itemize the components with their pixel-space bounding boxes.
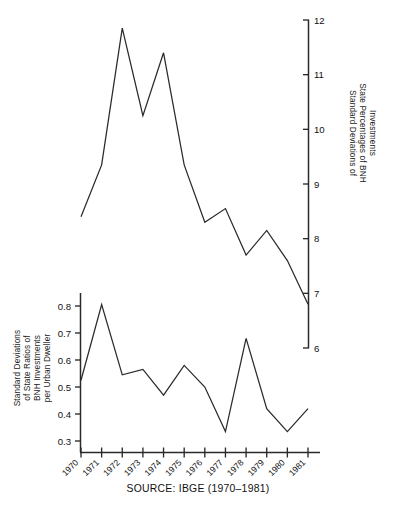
lower-ytick-label-0.7: 0.7 [58, 328, 71, 339]
figure-canvas: 1211109876 Standard Deviations ofState P… [0, 0, 397, 506]
lower-xtick-label-1977: 1977 [204, 457, 225, 478]
upper-series-line [81, 28, 308, 304]
upper-tick-label-11: 11 [314, 69, 324, 80]
lower-axis-title-line-3: per Urban Dweller [42, 334, 52, 403]
upper-axis-title-line-2: Investments [368, 110, 378, 156]
upper-tick-label-6: 6 [314, 343, 319, 354]
source-note: SOURCE: IBGE (1970–1981) [127, 483, 270, 494]
lower-xtick-label-1979: 1979 [246, 457, 267, 478]
upper-tick-label-9: 9 [314, 179, 319, 190]
upper-tick-label-group: 1211109876 [314, 15, 325, 354]
lower-xtick-label-1975: 1975 [163, 457, 184, 478]
lower-ytick-label-0.6: 0.6 [58, 355, 71, 366]
upper-axis-title-line-0: Standard Deviations of [348, 90, 358, 177]
lower-ytick-label-0.4: 0.4 [58, 409, 72, 420]
upper-tick-label-8: 8 [314, 233, 319, 244]
lower-xtick-label-1978: 1978 [225, 457, 246, 478]
lower-axis-title-line-2: BNH Investments [32, 335, 42, 401]
upper-axis-title: Standard Deviations ofState Percentages … [348, 83, 378, 183]
upper-tick-label-7: 7 [314, 288, 319, 299]
upper-panel: 1211109876 Standard Deviations ofState P… [81, 15, 378, 354]
lower-axis-title-line-0: Standard Deviations [12, 330, 22, 407]
upper-axis-title-line-1: State Percentages of BNH [358, 83, 368, 183]
lower-ytick-label-group: 0.80.70.60.50.40.3 [58, 301, 72, 447]
lower-xtick-label-1971: 1971 [80, 457, 101, 478]
lower-xtick-label-1972: 1972 [101, 457, 122, 478]
lower-xtick-label-1981: 1981 [287, 457, 308, 478]
upper-tick-label-12: 12 [314, 15, 325, 26]
lower-xtick-label-1974: 1974 [142, 457, 163, 478]
lower-panel: 0.80.70.60.50.40.3 197019711972197319741… [12, 293, 320, 478]
lower-ytick-label-0.8: 0.8 [58, 301, 71, 312]
lower-axis-title-line-1: of State Ratios of [22, 335, 32, 401]
lower-ytick-label-0.3: 0.3 [58, 436, 71, 447]
upper-tick-label-10: 10 [314, 124, 325, 135]
lower-xtick-label-group: 1970197119721973197419751976197719781979… [60, 457, 308, 478]
lower-ytick-label-0.5: 0.5 [58, 382, 71, 393]
lower-axis-title: Standard Deviationsof State Ratios ofBNH… [12, 330, 53, 407]
lower-xtick-label-1970: 1970 [60, 457, 81, 478]
lower-series-line [81, 305, 308, 432]
lower-xtick-label-1976: 1976 [184, 457, 205, 478]
lower-xtick-label-1973: 1973 [122, 457, 143, 478]
lower-xtick-label-1980: 1980 [266, 457, 287, 478]
